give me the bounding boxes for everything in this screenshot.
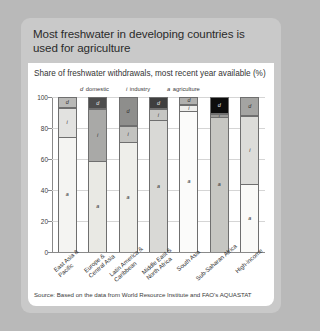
bar-segment-label: a — [218, 182, 221, 187]
legend-key-icon: i — [126, 86, 127, 92]
bar-segment-agriculture[interactable]: a — [149, 120, 168, 252]
y-tick-label: 80 — [32, 125, 48, 132]
bar-segment-label: i — [158, 113, 159, 118]
bar-segment-domestic[interactable]: d — [88, 97, 107, 109]
bar-segment-domestic[interactable]: d — [210, 97, 229, 114]
stacked-bar[interactable]: dia — [58, 97, 77, 252]
legend-item-domestic: ddomestic — [80, 86, 109, 92]
bar-segment-label: i — [249, 148, 250, 153]
chart-subtitle: Share of freshwater withdrawals, most re… — [34, 69, 266, 78]
y-tick — [48, 252, 52, 253]
bar-segment-domestic[interactable]: d — [179, 97, 198, 105]
chart-legend: ddomesticiindustryaagriculture — [80, 86, 270, 92]
bar-segment-industry[interactable]: i — [58, 108, 77, 137]
stacked-bar[interactable]: dia — [240, 97, 259, 252]
plot-area: 020406080100 diadiadiadiadiadiadia — [52, 97, 265, 252]
bar-slot: dia — [235, 97, 265, 252]
x-axis-label: East Asia &Pacific — [53, 248, 86, 279]
bar-segment-label: d — [66, 100, 69, 105]
bar-segment-industry[interactable]: i — [149, 109, 168, 120]
bar-slot: dia — [52, 97, 82, 252]
y-tick-label: 20 — [32, 218, 48, 225]
legend-item-agriculture: aagriculture — [167, 86, 200, 92]
chart-panel: Share of freshwater withdrawals, most re… — [28, 63, 274, 306]
bar-segment-domestic[interactable]: d — [149, 97, 168, 109]
legend-label: agriculture — [173, 86, 200, 92]
source-note: Source: Based on the data from World Res… — [34, 291, 252, 298]
bar-segment-industry[interactable]: i — [240, 116, 259, 184]
stacked-bar[interactable]: dia — [149, 97, 168, 252]
chart-title: Most freshwater in developing countries … — [33, 27, 271, 54]
bar-slot: dia — [82, 97, 112, 252]
bar-slot: dia — [143, 97, 173, 252]
bar-segment-label: i — [127, 132, 128, 137]
bar-segment-agriculture[interactable]: a — [88, 161, 107, 252]
chart-card: Most freshwater in developing countries … — [21, 18, 281, 313]
bar-segment-label: d — [96, 101, 99, 106]
bar-segment-agriculture[interactable]: a — [119, 142, 138, 252]
legend-label: domestic — [86, 86, 109, 92]
bar-slot: dia — [204, 97, 234, 252]
bar-segment-label: a — [96, 204, 99, 209]
bar-segment-label: d — [248, 104, 251, 109]
bar-slot: dia — [113, 97, 143, 252]
stacked-bar[interactable]: dia — [210, 97, 229, 252]
bar-segment-domestic[interactable]: d — [119, 97, 138, 126]
y-tick-label: 60 — [32, 156, 48, 163]
bar-segment-agriculture[interactable]: a — [58, 137, 77, 252]
bar-slot: dia — [174, 97, 204, 252]
bar-segment-label: i — [67, 120, 68, 125]
legend-key-icon: d — [80, 86, 83, 92]
y-tick-label: 0 — [32, 249, 48, 256]
bar-segment-agriculture[interactable]: a — [240, 184, 259, 252]
stacked-bar[interactable]: dia — [179, 97, 198, 252]
legend-key-icon: a — [167, 86, 170, 92]
bar-segment-label: a — [127, 195, 130, 200]
y-tick-label: 40 — [32, 187, 48, 194]
bar-segment-agriculture[interactable]: a — [210, 117, 229, 252]
legend-item-industry: iindustry — [126, 86, 150, 92]
bar-segment-industry[interactable]: i — [119, 126, 138, 142]
bar-segment-label: d — [127, 109, 130, 114]
bar-segment-label: a — [187, 179, 190, 184]
stacked-bar[interactable]: dia — [88, 97, 107, 252]
bar-segment-domestic[interactable]: d — [58, 97, 77, 108]
y-tick-label: 100 — [32, 94, 48, 101]
bar-segment-agriculture[interactable]: a — [179, 111, 198, 252]
bar-segment-label: a — [157, 184, 160, 189]
bar-segment-domestic[interactable]: d — [240, 97, 259, 116]
legend-label: industry — [130, 86, 150, 92]
bar-segment-label: i — [97, 133, 98, 138]
stacked-bar[interactable]: dia — [119, 97, 138, 252]
bar-segment-label: d — [218, 103, 221, 108]
bar-group: diadiadiadiadiadiadia — [52, 97, 265, 252]
bar-segment-label: a — [248, 216, 251, 221]
bar-segment-label: d — [187, 98, 190, 103]
bar-segment-industry[interactable]: i — [88, 109, 107, 160]
bar-segment-label: d — [157, 101, 160, 106]
bar-segment-label: a — [66, 192, 69, 197]
